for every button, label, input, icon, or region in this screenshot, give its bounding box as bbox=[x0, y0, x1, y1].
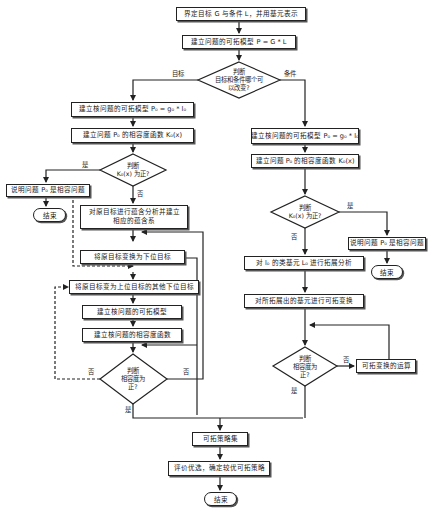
other-lower-goal-box: 将原目标变为上位目标的其他下位目标 bbox=[69, 280, 199, 294]
strategy-set-box: 可拓策略集 bbox=[192, 432, 248, 446]
cond-no-label: 否 bbox=[291, 233, 297, 241]
lower-goal-box: 将原目标变换为下位目标 bbox=[80, 250, 185, 264]
goal-branch-label: 目标 bbox=[172, 70, 184, 78]
define-goal-condition-box: 界定目标 G 与条件 L，并用基元表示 bbox=[176, 7, 306, 21]
cond-decision-text: 判断 K₀(x) 为正? bbox=[276, 204, 334, 220]
main-decision-text: 判断 目标和条件哪个可 以改变? bbox=[204, 68, 274, 92]
goal-decision-text: 判断 K₀(x) 为正? bbox=[104, 162, 162, 178]
goal-compatible-box: 说明问题 P₀ 是相容问题 bbox=[6, 184, 90, 197]
condition-branch-label: 条件 bbox=[284, 70, 296, 78]
build-model-box: 建立问题的可拓模型 P = G * L bbox=[182, 35, 296, 49]
left-yes-label: 是 bbox=[125, 406, 131, 414]
left-decision-text: 判断 相容度为 正? bbox=[108, 367, 158, 391]
goal-yes-label: 是 bbox=[82, 161, 88, 169]
cond-end-terminal: 结束 bbox=[371, 265, 403, 279]
extension-analysis-box: 对 l₀ 的类基元 L₀ 进行拓展分析 bbox=[244, 256, 364, 270]
goal-end-terminal: 结束 bbox=[33, 208, 66, 222]
goal-core-model-box: 建立核问题的可拓模型 P₀ = g₀ * l₀ bbox=[71, 102, 194, 117]
core-compat-func-box: 建立核问题的相容度函数 bbox=[82, 328, 182, 342]
left-no-dashed-label: 否 bbox=[88, 368, 94, 376]
left-no-loop-label: 否 bbox=[183, 368, 189, 376]
final-end-terminal: 结束 bbox=[204, 492, 237, 506]
right-yes-label: 是 bbox=[291, 387, 297, 395]
right-no-label: 否 bbox=[343, 356, 349, 364]
goal-compat-func-box: 建立问题 P₀ 的相容度函数 K₀(x) bbox=[71, 128, 194, 143]
right-decision-text: 判断 相容度为 正? bbox=[280, 355, 330, 379]
core-model-box: 建立核问题的可拓模型 bbox=[82, 305, 182, 319]
implication-analysis-box: 对原目标进行蕴含分析并建立 相应的蕴含系 bbox=[80, 205, 188, 229]
transform-operation-box: 可拓变换的运算 bbox=[356, 359, 416, 373]
extensible-transform-box: 对所拓展出的基元进行可拓变换 bbox=[244, 294, 364, 308]
goal-no-label: 否 bbox=[137, 190, 143, 198]
evaluate-optimize-box: 评价优选，确定较优可拓策略 bbox=[168, 461, 270, 476]
cond-compatible-box: 说明问题 P₀ 是相容问题 bbox=[348, 237, 426, 250]
cond-core-model-box: 建立核问题的可拓模型 P₀ = g₀ * l₀ bbox=[251, 128, 359, 144]
cond-yes-label: 是 bbox=[347, 202, 353, 210]
cond-compat-func-box: 建立问题 P₀ 的相容度函数 K₀(x) bbox=[251, 154, 359, 168]
